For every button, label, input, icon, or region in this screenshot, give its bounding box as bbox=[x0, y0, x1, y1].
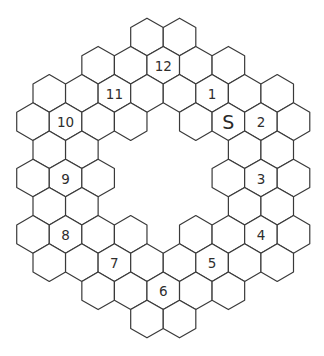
step-number-label: 1 bbox=[208, 86, 217, 102]
step-number-label: 8 bbox=[61, 227, 70, 243]
hex-puzzle-board: 1211110S29384756 bbox=[0, 0, 324, 356]
step-number-label: 7 bbox=[110, 255, 119, 271]
start-marker-label: S bbox=[222, 111, 234, 133]
step-number-label: 2 bbox=[257, 114, 266, 130]
step-number-label: 12 bbox=[155, 58, 172, 74]
step-number-label: 6 bbox=[159, 283, 168, 299]
step-number-label: 5 bbox=[208, 255, 217, 271]
step-number-label: 9 bbox=[61, 171, 70, 187]
step-number-label: 11 bbox=[106, 86, 123, 102]
step-number-label: 3 bbox=[257, 171, 266, 187]
step-number-label: 10 bbox=[57, 114, 74, 130]
step-number-label: 4 bbox=[257, 227, 266, 243]
